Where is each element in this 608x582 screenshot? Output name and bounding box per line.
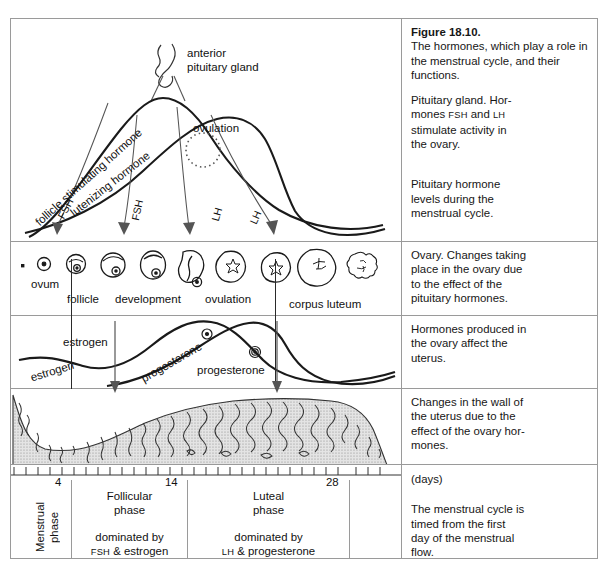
pituitary-gland-icon [155,44,175,87]
phase-luteal-hormone-abbr: LH [222,547,234,557]
pituitary-levels-line2: levels during the [411,193,494,205]
pituitary-levels-line3: menstrual cycle. [411,207,493,219]
uterus-wall-row [11,389,401,465]
row-divider-4 [11,464,401,465]
phase-luteal-line2: phase [253,504,284,516]
guide-line-day22 [275,259,276,389]
gland-label-line1: anterior [187,47,226,59]
days-desc-line3: day of the menstrual [411,532,514,544]
ovum-symbols [202,329,261,358]
panel-hormone: Hormones produced in the ovary affect th… [402,316,597,388]
phase-follicular-line2: phase [114,504,145,516]
phase-divider-3 [349,480,350,558]
ovary-desc-line3: to the effect of the [411,278,502,290]
pituitary-desc-line4: the ovary. [411,138,460,150]
panel-days: (days) The menstrual cycle is timed from… [402,466,597,558]
right-divider-4 [402,464,597,465]
figure-caption: The hormones, which play a role in the m… [411,40,588,81]
diagram-column: anterior pituitary gland ovulation folli… [11,19,401,558]
ovulation-marker-circle [186,133,220,167]
phase-follicular: Follicular phase dominated by FSH & estr… [72,466,187,558]
panel-uterus: Changes in the wall of the uterus due to… [402,389,597,465]
endometrium-svg [11,389,401,465]
panel-ovary: Ovary. Changes taking place in the ovary… [402,242,597,315]
day-mark-4: 4 [55,476,61,488]
phase-menstrual-line2: phase [48,511,60,542]
ovary-desc-line2: place in the ovary due [411,263,522,275]
pituitary-desc-line2a: mones [411,108,448,120]
ovary-desc-line1: Ovary. Changes taking [411,249,526,261]
phase-follicular-dominated: dominated by [95,531,163,543]
pituitary-gland-label: anterior pituitary gland [187,47,259,74]
days-desc-line2: timed from the first [411,518,505,530]
hormone-desc-line3: uterus. [411,352,446,364]
hormone-desc-line2: the ovary affect the [411,337,508,349]
phase-luteal: Luteal phase dominated by LH & progester… [188,466,349,558]
figure-number: Figure 18.10. [411,26,481,38]
uterus-desc-line3: effect of the ovary hor- [411,425,525,437]
phase-timeline-row: 4 14 28 Menstrual phase Follicular phase… [11,466,401,558]
abbr-lh: LH [493,110,505,120]
uterus-desc-line1: Changes in the wall of [411,396,523,408]
hormone-action-arrowheads [52,220,278,235]
hormone-desc-line1: Hormones produced in [411,323,526,335]
phase-luteal-line1: Luteal [253,490,284,502]
ovary-row: ovum follicle development ovulation corp… [11,242,401,315]
ovary-stage-label-ovulation: ovulation [205,293,251,307]
phase-menstrual: Menstrual phase [33,496,69,558]
pituitary-levels-line1: Pituitary hormone [411,178,500,190]
pituitary-desc-and: and [468,108,493,120]
progesterone-label-lower: progesterone [197,364,265,378]
days-desc-line4: flow. [411,546,434,558]
phase-follicular-line1: Follicular [107,490,153,502]
phase-luteal-hormone-rest: & progesterone [234,545,315,557]
pituitary-desc-line1: Pituitary gland. Hor- [411,94,512,106]
uterus-desc-line2: the uterus due to the [411,410,516,422]
phase-follicular-hormone-rest: & estrogen [110,545,168,557]
days-unit-label: (days) [411,473,443,485]
ovulation-label: ovulation [193,122,239,136]
ovarian-hormone-row: estrogen estrogen progesterone progester… [11,316,401,388]
gland-label-line2: pituitary gland [187,61,259,73]
pituitary-desc-line3: stimulate activity in [411,124,507,136]
ovary-stage-label-corpus-luteum: corpus luteum [289,298,361,312]
days-desc-line1: The menstrual cycle is [411,503,524,515]
ovary-desc-line4: pituitary hormones. [411,292,508,304]
abbr-fsh: FSH [448,110,467,120]
ovary-stage-label-development: development [115,293,181,307]
pituitary-hormone-row: anterior pituitary gland ovulation folli… [11,19,401,241]
figure-frame: anterior pituitary gland ovulation folli… [10,18,598,559]
phase-luteal-dominated: dominated by [234,531,302,543]
ovary-stage-label-ovum: ovum [31,278,59,292]
uterus-desc-line4: mones. [411,439,448,451]
phase-menstrual-line1: Menstrual [34,502,46,552]
estrogen-label-upper: estrogen [63,336,108,350]
phase-follicular-hormone-abbr: FSH [91,547,110,557]
guide-line-day4 [71,259,72,389]
description-column: Figure 18.10. The hormones, which play a… [402,19,597,558]
panel-caption-pituitary: Figure 18.10. The hormones, which play a… [402,19,597,241]
